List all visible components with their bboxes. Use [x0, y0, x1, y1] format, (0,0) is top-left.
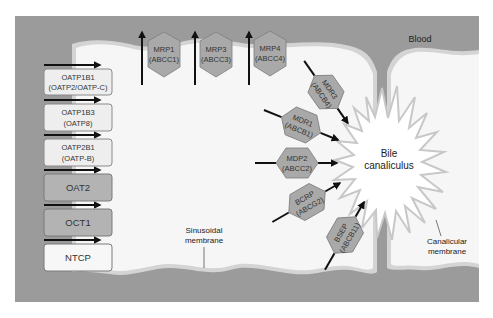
canalicular-label-line1: Canalicular: [427, 237, 467, 246]
sinusoidal-label-line2: membrane: [185, 236, 224, 245]
transporter-mrp3: MRP3 (ABCC3): [200, 32, 232, 77]
svg-text:OATP1B3: OATP1B3: [61, 108, 94, 117]
hepatocyte-transporter-diagram: Blood Bile canaliculus Sinusoidal membra…: [0, 0, 493, 318]
svg-text:MDP2: MDP2: [287, 154, 308, 163]
svg-text:(OATP-B): (OATP-B): [62, 154, 95, 163]
blood-label: Blood: [408, 34, 431, 44]
svg-text:(ABCC3): (ABCC3): [201, 55, 232, 64]
bile-label-line2: canaliculus: [364, 160, 413, 171]
svg-text:(OATP2/OATP-C): (OATP2/OATP-C): [49, 83, 108, 92]
svg-text:NTCP: NTCP: [65, 252, 91, 263]
svg-text:(ABCC2): (ABCC2): [282, 164, 313, 173]
svg-text:(ABCC4): (ABCC4): [255, 54, 286, 63]
svg-text:MRP4: MRP4: [260, 44, 281, 53]
transporter-mrp1: MRP1 (ABCC1): [148, 32, 180, 77]
transporter-oct1: OCT1: [44, 209, 112, 236]
transporter-oatp1b3: OATP1B3 (OATP8): [44, 104, 112, 131]
svg-text:OAT2: OAT2: [66, 182, 90, 193]
transporter-oatp1b1: OATP1B1 (OATP2/OATP-C): [44, 69, 112, 95]
transporter-ntcp: NTCP: [44, 244, 112, 271]
svg-text:OATP2B1: OATP2B1: [61, 143, 94, 152]
svg-text:(ABCC1): (ABCC1): [149, 55, 180, 64]
svg-text:MRP1: MRP1: [154, 45, 175, 54]
bile-label-line1: Bile: [381, 148, 398, 159]
svg-text:MRP3: MRP3: [206, 45, 227, 54]
transporter-oatp2b1: OATP2B1 (OATP-B): [44, 139, 112, 166]
svg-text:(OATP8): (OATP8): [63, 119, 93, 128]
canalicular-label-line2: membrane: [428, 247, 467, 256]
transporter-oat2: OAT2: [44, 174, 112, 201]
svg-text:OATP1B1: OATP1B1: [61, 73, 94, 82]
svg-text:OCT1: OCT1: [65, 217, 90, 228]
sinusoidal-label-line1: Sinusoidal: [186, 226, 223, 235]
transporter-mrp4: MRP4 (ABCC4): [254, 31, 286, 76]
